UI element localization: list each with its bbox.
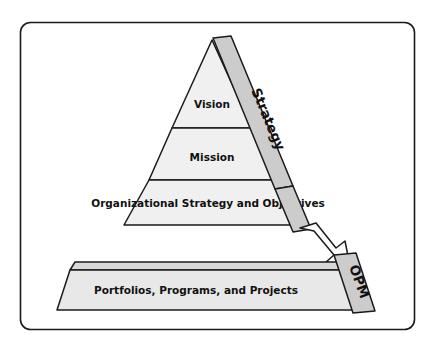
diagram-canvas: Vision Mission Organizational Strategy a…: [0, 0, 434, 349]
pyramid-tier-mission-label: Mission: [190, 151, 235, 163]
banner-label: Portfolios, Programs, and Projects: [94, 284, 298, 296]
pyramid-tier-vision-label: Vision: [194, 98, 230, 110]
banner-top-strip: [70, 262, 345, 270]
portfolios-programs-projects-banner: Portfolios, Programs, and Projects: [57, 262, 358, 310]
